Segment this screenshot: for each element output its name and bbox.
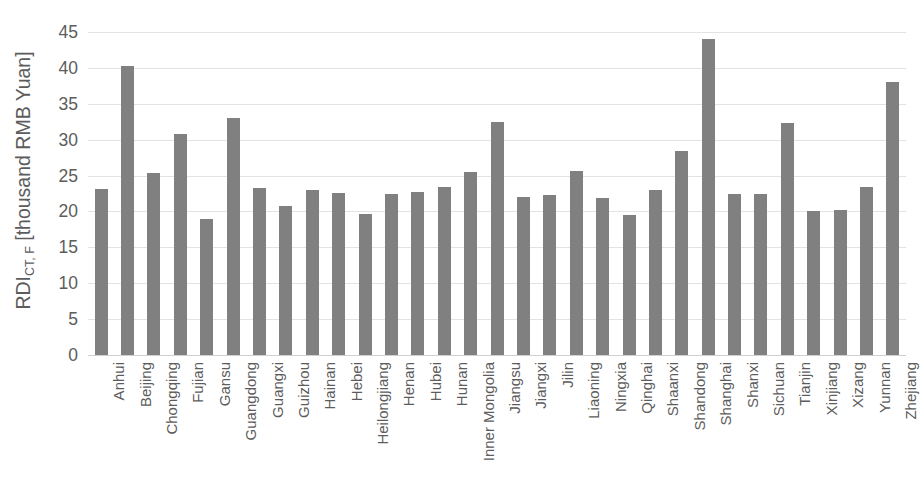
x-tick-slot: Inner Mongolia — [457, 358, 483, 488]
bar[interactable] — [675, 151, 688, 355]
bar[interactable] — [649, 190, 662, 355]
bar-chart: RDICT, F [thousand RMB Yuan] 45403530252… — [0, 0, 923, 492]
bar-slot — [457, 32, 483, 355]
bar-slot — [405, 32, 431, 355]
bars-container — [88, 32, 906, 355]
y-axis-tick: 30 — [59, 129, 78, 150]
bar[interactable] — [121, 66, 134, 355]
y-axis-tick: 5 — [68, 309, 78, 330]
bar-slot — [748, 32, 774, 355]
bar[interactable] — [491, 122, 504, 355]
y-axis-tick: 40 — [59, 57, 78, 78]
bar-slot — [141, 32, 167, 355]
bar[interactable] — [886, 82, 899, 355]
x-tick-slot: Xizang — [827, 358, 853, 488]
bar-slot — [378, 32, 404, 355]
x-tick-slot: Shanxi — [721, 358, 747, 488]
y-axis-tick: 20 — [59, 201, 78, 222]
bar[interactable] — [781, 123, 794, 355]
bar[interactable] — [860, 187, 873, 355]
x-tick-slot: Jiangsu — [484, 358, 510, 488]
bar[interactable] — [95, 189, 108, 355]
x-tick-slot: Ningxia — [589, 358, 615, 488]
bar[interactable] — [807, 211, 820, 355]
y-axis-tick-labels: 454035302520151050 — [46, 0, 84, 380]
bar[interactable] — [834, 210, 847, 355]
bar-slot — [194, 32, 220, 355]
bar-slot — [853, 32, 879, 355]
bar[interactable] — [332, 193, 345, 355]
bar[interactable] — [200, 219, 213, 355]
x-tick-slot: Hainan — [299, 358, 325, 488]
bar-slot — [721, 32, 747, 355]
x-tick-slot: Heilongjiang — [352, 358, 378, 488]
bar[interactable] — [543, 195, 556, 355]
x-tick-slot: Gansu — [194, 358, 220, 488]
bar[interactable] — [385, 194, 398, 356]
bar-slot — [273, 32, 299, 355]
bar[interactable] — [227, 118, 240, 355]
bar-slot — [537, 32, 563, 355]
y-axis-tick: 15 — [59, 237, 78, 258]
bar[interactable] — [174, 134, 187, 355]
y-axis-tick: 0 — [68, 345, 78, 366]
bar-slot — [299, 32, 325, 355]
y-axis-title-unit: [thousand RMB Yuan] — [12, 51, 34, 246]
bar[interactable] — [253, 188, 266, 355]
bar-slot — [326, 32, 352, 355]
bar-slot — [484, 32, 510, 355]
bar[interactable] — [464, 172, 477, 355]
x-tick-slot: Shandong — [669, 358, 695, 488]
y-axis-tick: 45 — [59, 22, 78, 43]
bar[interactable] — [517, 197, 530, 355]
x-tick-slot: Beijing — [114, 358, 140, 488]
bar[interactable] — [702, 39, 715, 355]
bar[interactable] — [279, 206, 292, 355]
bar-slot — [801, 32, 827, 355]
bar-slot — [642, 32, 668, 355]
bar[interactable] — [411, 192, 424, 355]
y-axis-tick: 10 — [59, 273, 78, 294]
y-axis-title-subscript: CT, F — [23, 246, 37, 276]
x-axis-line — [88, 355, 906, 356]
bar-slot — [669, 32, 695, 355]
bar-slot — [563, 32, 589, 355]
bar-slot — [827, 32, 853, 355]
bar[interactable] — [438, 187, 451, 355]
x-tick-slot: Qinghai — [616, 358, 642, 488]
x-tick-slot: Xinjiang — [801, 358, 827, 488]
bar[interactable] — [623, 215, 636, 355]
bar-slot — [88, 32, 114, 355]
x-tick-slot: Guizhou — [273, 358, 299, 488]
x-tick-slot: Shanghai — [695, 358, 721, 488]
bar-slot — [167, 32, 193, 355]
bar-slot — [616, 32, 642, 355]
x-tick-slot: Sichuan — [748, 358, 774, 488]
x-tick-slot: Fujian — [167, 358, 193, 488]
x-tick-slot: Zhejiang — [880, 358, 906, 488]
bar[interactable] — [359, 214, 372, 355]
bar-slot — [695, 32, 721, 355]
y-axis-title: RDICT, F [thousand RMB Yuan] — [0, 0, 46, 360]
bar-slot — [114, 32, 140, 355]
x-tick-slot: Henan — [378, 358, 404, 488]
bar[interactable] — [596, 198, 609, 355]
bar[interactable] — [147, 173, 160, 355]
bar[interactable] — [306, 190, 319, 355]
x-tick-slot: Yunnan — [853, 358, 879, 488]
x-tick-slot: Hunan — [431, 358, 457, 488]
x-tick-slot: Guangdong — [220, 358, 246, 488]
x-tick-slot: Jiangxi — [510, 358, 536, 488]
bar-slot — [220, 32, 246, 355]
bar[interactable] — [754, 194, 767, 356]
y-axis-tick: 25 — [59, 165, 78, 186]
bar-slot — [352, 32, 378, 355]
x-tick-slot: Hubei — [405, 358, 431, 488]
bar[interactable] — [570, 171, 583, 355]
x-axis-tick-labels: AnhuiBeijingChongqingFujianGansuGuangdon… — [88, 358, 906, 488]
plot-area — [88, 32, 906, 355]
x-tick-slot: Liaoning — [563, 358, 589, 488]
bar-slot — [774, 32, 800, 355]
x-tick-slot: Tianjin — [774, 358, 800, 488]
bar[interactable] — [728, 194, 741, 356]
